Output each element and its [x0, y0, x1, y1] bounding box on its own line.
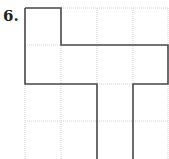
grid-figure	[0, 0, 169, 159]
